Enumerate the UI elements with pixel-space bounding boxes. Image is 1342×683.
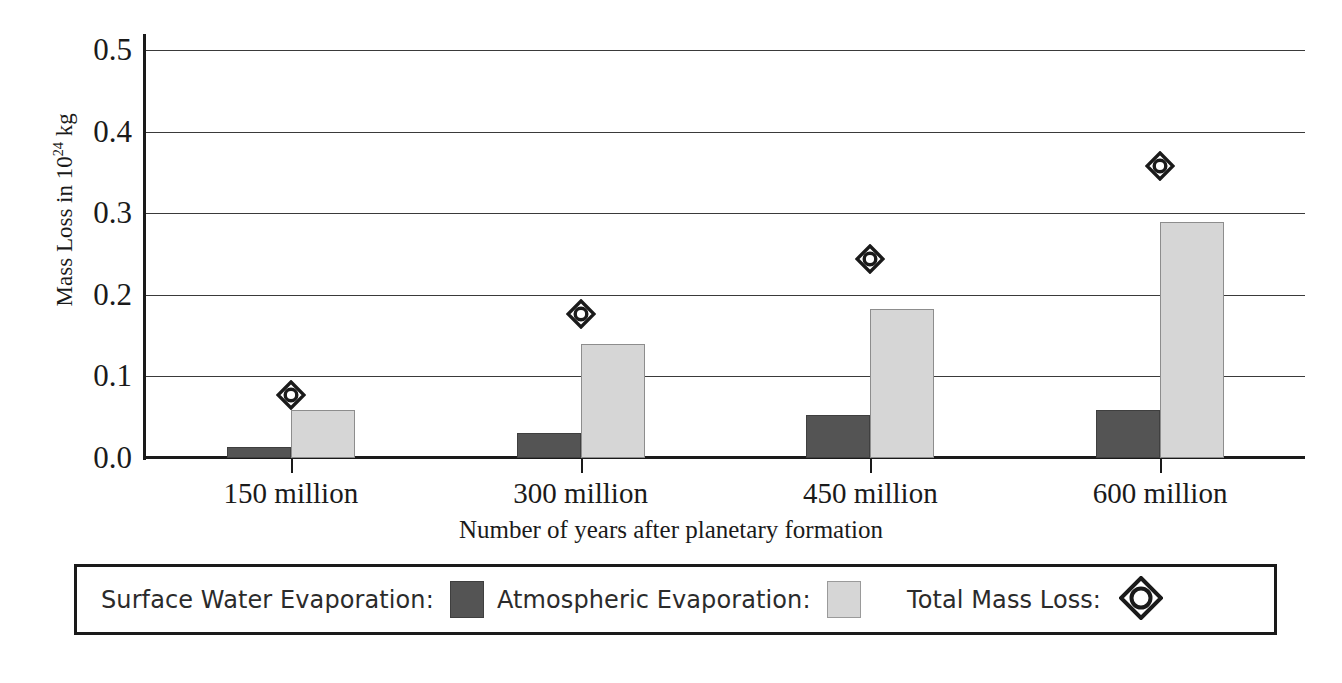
legend-label: Atmospheric Evaporation: xyxy=(497,586,811,614)
legend-label: Surface Water Evaporation: xyxy=(101,586,434,614)
bar xyxy=(291,410,355,458)
plot-area xyxy=(146,50,1305,458)
y-axis-tick-label: 0.1 xyxy=(40,360,132,391)
x-axis-tick-label: 150 million xyxy=(161,478,421,508)
x-axis-tick-label: 300 million xyxy=(451,478,711,508)
diamond-marker-icon xyxy=(1119,576,1163,624)
x-axis-tick xyxy=(1160,459,1162,473)
x-axis-tick xyxy=(581,459,583,473)
legend-item-total-mass-loss: Total Mass Loss: xyxy=(907,576,1163,624)
legend-label: Total Mass Loss: xyxy=(907,586,1101,614)
x-axis-tick-label: 600 million xyxy=(1030,478,1290,508)
bar xyxy=(227,447,291,458)
light-square-swatch-icon xyxy=(827,581,861,618)
gridline xyxy=(146,376,1305,377)
y-axis-tick-label: 0.3 xyxy=(40,197,132,228)
bar xyxy=(581,344,645,458)
y-axis-tick-label: 0.0 xyxy=(40,442,132,473)
chart-canvas: Mass Loss in 1024 kg 0.00.10.20.30.40.5 … xyxy=(0,0,1342,545)
chart-legend: Surface Water Evaporation: Atmospheric E… xyxy=(74,564,1277,635)
bar xyxy=(1160,222,1224,458)
diamond-marker xyxy=(276,380,306,410)
x-axis-title: Number of years after planetary formatio… xyxy=(0,516,1342,544)
gridline xyxy=(146,132,1305,133)
gridline xyxy=(146,295,1305,296)
bar xyxy=(806,415,870,458)
x-axis-tick-label: 450 million xyxy=(740,478,1000,508)
dark-square-swatch-icon xyxy=(450,581,484,618)
diamond-marker xyxy=(855,244,885,274)
legend-item-surface-water-evaporation: Surface Water Evaporation: xyxy=(101,581,484,618)
x-axis-tick xyxy=(870,459,872,473)
y-axis-tick-label: 0.4 xyxy=(40,116,132,147)
gridline xyxy=(146,213,1305,214)
y-axis-tick-label: 0.5 xyxy=(40,34,132,65)
bar xyxy=(1096,410,1160,458)
diamond-marker xyxy=(566,299,596,329)
legend-item-atmospheric-evaporation: Atmospheric Evaporation: xyxy=(497,581,861,618)
diamond-marker xyxy=(1145,151,1175,181)
bar xyxy=(870,309,934,458)
y-axis-tick-label: 0.2 xyxy=(40,279,132,310)
gridline xyxy=(146,50,1305,51)
x-axis-tick xyxy=(291,459,293,473)
bar xyxy=(517,433,581,458)
chart-page: Mass Loss in 1024 kg 0.00.10.20.30.40.5 … xyxy=(0,0,1342,683)
